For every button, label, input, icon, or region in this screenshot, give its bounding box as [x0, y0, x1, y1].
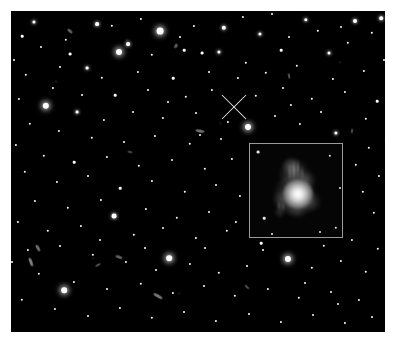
star — [137, 71, 139, 73]
background-galaxy — [287, 73, 290, 79]
star — [54, 308, 56, 310]
star — [203, 285, 205, 287]
star — [218, 272, 220, 274]
sky-field-image — [11, 11, 385, 332]
star — [56, 181, 58, 183]
star — [87, 315, 89, 317]
star — [21, 299, 23, 301]
star — [195, 112, 197, 114]
inset-field-star — [335, 227, 337, 229]
star — [11, 261, 13, 263]
star — [81, 94, 83, 96]
star — [373, 212, 375, 214]
background-galaxy — [67, 28, 74, 34]
star — [237, 77, 239, 79]
crosshair-arm-a — [222, 95, 247, 120]
star — [133, 234, 135, 236]
star — [332, 78, 334, 80]
background-galaxy — [173, 43, 178, 49]
star — [80, 225, 82, 227]
star — [340, 260, 342, 262]
background-galaxy — [28, 257, 34, 266]
star — [337, 303, 339, 305]
star — [334, 131, 337, 134]
star — [215, 184, 217, 186]
star — [195, 237, 197, 239]
galaxy-filament — [297, 159, 299, 179]
galaxy-filament — [278, 201, 280, 211]
star — [311, 98, 313, 100]
star — [371, 32, 373, 34]
star — [155, 269, 157, 271]
star — [239, 195, 241, 197]
star — [377, 248, 379, 250]
inset-field-star — [329, 155, 331, 157]
star — [162, 227, 164, 229]
star — [282, 87, 284, 89]
star — [144, 247, 146, 249]
star — [235, 221, 237, 223]
star — [151, 317, 153, 319]
star — [47, 230, 49, 232]
star — [116, 49, 122, 55]
zoom-inset-panel — [249, 143, 343, 238]
star — [183, 311, 185, 313]
star — [280, 321, 282, 323]
star — [140, 283, 142, 285]
star — [112, 214, 117, 219]
star — [358, 299, 360, 301]
star — [245, 62, 247, 64]
star — [166, 255, 172, 261]
background-galaxy — [127, 150, 132, 153]
star — [365, 118, 367, 120]
star — [245, 124, 251, 130]
star — [100, 199, 102, 201]
star — [34, 200, 36, 202]
star — [242, 16, 244, 18]
star — [27, 249, 29, 251]
star — [304, 18, 307, 21]
star — [61, 287, 67, 293]
star — [21, 35, 24, 38]
star — [189, 143, 191, 145]
star — [154, 135, 156, 137]
star — [43, 103, 49, 109]
star — [378, 175, 380, 177]
star — [157, 28, 164, 35]
star — [208, 211, 210, 213]
star — [76, 111, 79, 114]
star — [99, 239, 101, 241]
star — [15, 144, 17, 146]
star — [227, 121, 229, 123]
star — [176, 217, 178, 219]
star — [274, 115, 276, 117]
star — [355, 164, 357, 166]
star — [340, 26, 342, 28]
star — [234, 295, 236, 297]
star — [40, 46, 42, 48]
star — [258, 32, 261, 35]
star — [362, 191, 364, 193]
star — [317, 30, 319, 32]
background-galaxy — [35, 244, 41, 252]
star — [145, 208, 147, 210]
star — [220, 138, 222, 140]
star — [86, 67, 89, 70]
galaxy-emission-blob — [274, 206, 286, 218]
star — [183, 49, 186, 52]
star — [17, 221, 19, 223]
star — [24, 171, 26, 173]
background-galaxy — [195, 129, 204, 134]
star — [296, 65, 298, 67]
star — [171, 159, 173, 161]
star — [106, 288, 108, 290]
star — [87, 175, 89, 177]
inset-field-star — [257, 151, 260, 154]
star — [123, 141, 125, 143]
star — [260, 242, 263, 245]
star — [32, 20, 35, 23]
star — [383, 59, 385, 61]
star — [59, 66, 61, 68]
star — [67, 207, 69, 209]
star — [65, 39, 67, 41]
